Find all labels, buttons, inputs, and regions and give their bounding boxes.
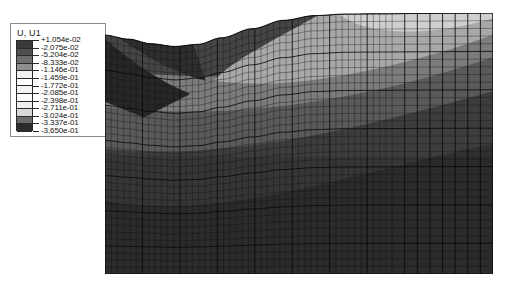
mesh-contour-svg (105, 13, 493, 274)
legend-swatch (17, 86, 32, 94)
legend-color-swatches (16, 40, 33, 131)
legend-tick (33, 131, 39, 132)
legend-swatch (17, 56, 32, 64)
legend-tick (33, 78, 39, 79)
legend-tick (33, 101, 39, 102)
legend-level-value: -3.650e-01 (41, 127, 79, 135)
legend-title: U, U1 (17, 28, 41, 38)
legend-tick (33, 55, 39, 56)
legend-swatch (17, 109, 32, 117)
legend-swatch (17, 71, 32, 79)
legend-tick (33, 70, 39, 71)
legend-tick-marks (33, 39, 40, 132)
legend-tick (33, 116, 39, 117)
legend-swatch (17, 41, 32, 49)
legend-tick (33, 93, 39, 94)
legend-tick (33, 86, 39, 87)
legend-tick (33, 40, 39, 41)
fea-contour-plot (105, 13, 493, 274)
screenshot-root: U, U1 +1.054e-02-2.075e-02-5.204e-02-8.3… (0, 0, 506, 287)
contour-legend: U, U1 +1.054e-02-2.075e-02-5.204e-02-8.3… (10, 23, 106, 137)
legend-swatch (17, 124, 32, 132)
legend-swatch (17, 117, 32, 125)
legend-swatch (17, 94, 32, 102)
legend-tick (33, 48, 39, 49)
legend-swatch (17, 64, 32, 72)
legend-value-labels: +1.054e-02-2.075e-02-5.204e-02-8.333e-02… (41, 39, 103, 132)
legend-body: +1.054e-02-2.075e-02-5.204e-02-8.333e-02… (16, 39, 104, 134)
legend-swatch (17, 49, 32, 57)
legend-tick (33, 63, 39, 64)
legend-swatch (17, 102, 32, 110)
legend-tick (33, 108, 39, 109)
legend-swatch (17, 79, 32, 87)
legend-tick (33, 123, 39, 124)
